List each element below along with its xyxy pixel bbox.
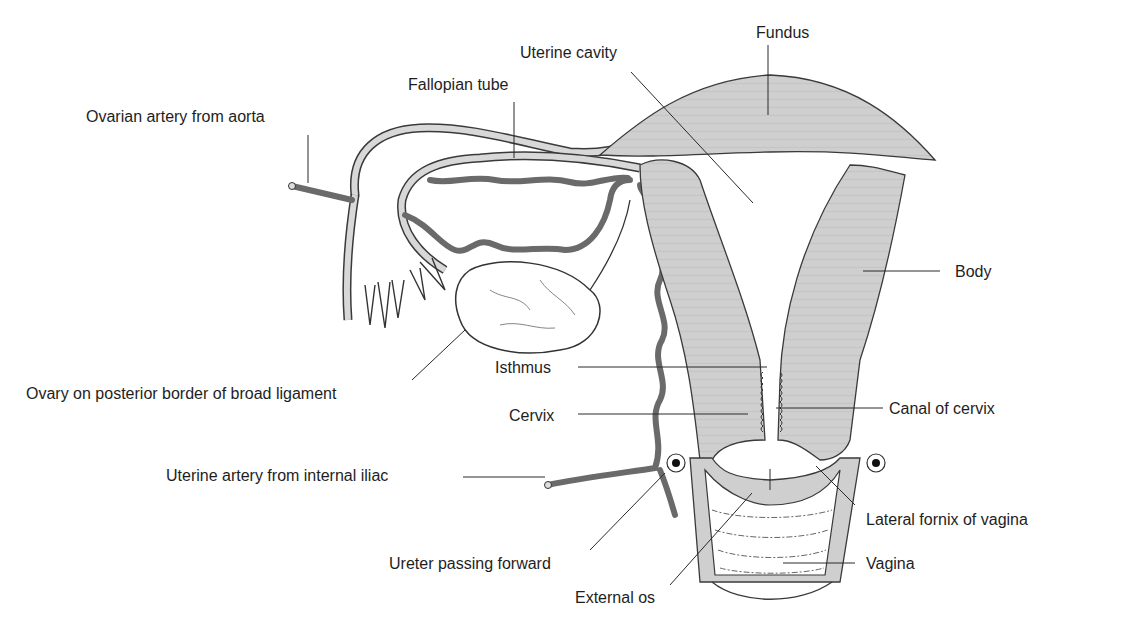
label-fundus: Fundus <box>756 24 809 42</box>
vagina-base <box>712 582 832 599</box>
ovarian-artery-cut-end <box>289 183 296 190</box>
label-canal-of-cervix: Canal of cervix <box>889 400 995 418</box>
uterine-wall-right <box>778 165 905 460</box>
label-ovary: Ovary on posterior border of broad ligam… <box>26 385 336 403</box>
uterus-anatomy-diagram <box>0 0 1129 633</box>
label-uterine-cavity: Uterine cavity <box>520 44 617 62</box>
label-body: Body <box>955 263 991 281</box>
ureter-right <box>867 454 885 472</box>
label-external-os: External os <box>575 589 655 607</box>
broad-ligament <box>590 200 630 290</box>
uterine-artery-cut-end <box>545 482 552 489</box>
label-ovarian-artery: Ovarian artery from aorta <box>86 108 265 126</box>
label-fallopian-tube: Fallopian tube <box>408 76 509 94</box>
ureter-left <box>667 454 685 472</box>
label-lateral-fornix: Lateral fornix of vagina <box>866 511 1028 529</box>
label-cervix: Cervix <box>509 407 554 425</box>
fimbriae <box>365 258 445 328</box>
label-ureter: Ureter passing forward <box>389 555 551 573</box>
label-isthmus: Isthmus <box>495 359 551 377</box>
label-uterine-artery: Uterine artery from internal iliac <box>166 467 388 485</box>
ovarian-artery-vessel <box>292 178 630 251</box>
label-vagina: Vagina <box>866 555 915 573</box>
